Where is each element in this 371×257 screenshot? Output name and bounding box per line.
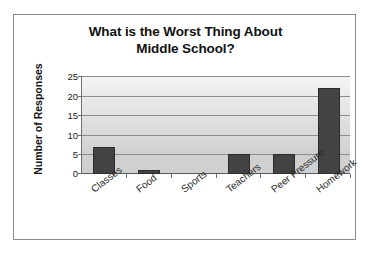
- chart-title: What is the Worst Thing About Middle Sch…: [28, 23, 343, 57]
- plot-wrapper: 0510152025 ClassesFoodSportsTeachersPeer…: [61, 76, 350, 176]
- bar: [318, 88, 340, 174]
- y-axis-tick-label: 20: [61, 91, 78, 100]
- x-axis-tick-labels: ClassesFoodSportsTeachersPeer PressureHo…: [81, 176, 356, 248]
- y-axis-title: Number of Responses: [32, 55, 44, 183]
- y-axis-tick-label: 10: [61, 130, 78, 139]
- y-axis-tick-label: 0: [61, 169, 78, 178]
- y-axis-tick-label: 25: [61, 72, 78, 81]
- chart-title-line-2: Middle School?: [28, 40, 343, 57]
- chart-title-line-1: What is the Worst Thing About: [89, 24, 283, 39]
- y-axis-tick-label: 15: [61, 111, 78, 120]
- y-axis-tick-labels: 0510152025: [61, 76, 78, 174]
- y-axis-tick-label: 5: [61, 150, 78, 159]
- chart-frame: What is the Worst Thing About Middle Sch…: [13, 14, 356, 240]
- x-axis-tick-label: Food: [134, 172, 159, 195]
